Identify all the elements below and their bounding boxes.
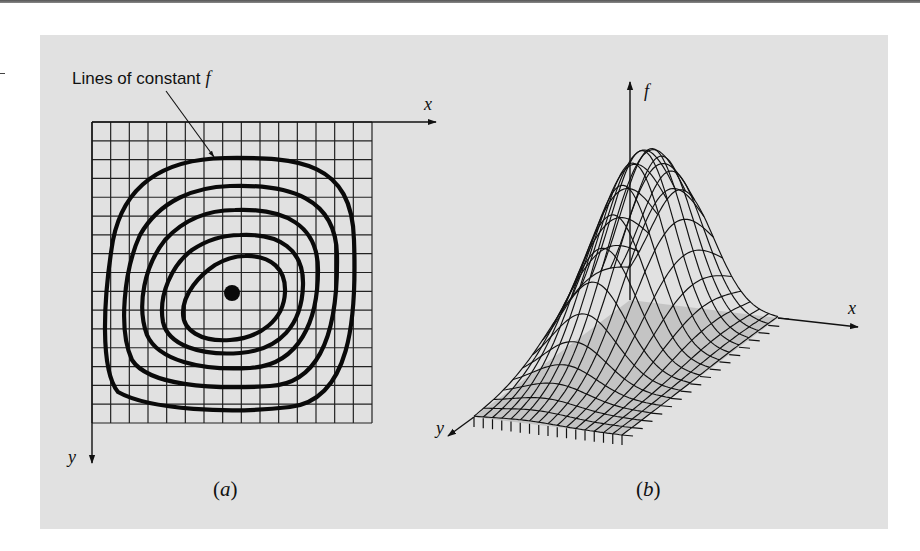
optimum-point — [224, 285, 240, 301]
y-axis-label-a: y — [66, 447, 76, 467]
contour-callout-label: Lines of constant — [72, 69, 201, 88]
contour-callout-var: f — [206, 68, 214, 88]
f-axis-label: f — [644, 81, 652, 101]
contour-lines — [105, 158, 355, 410]
x-axis-label-a: x — [423, 94, 432, 114]
grid — [92, 122, 372, 423]
x-axis-b — [778, 318, 858, 327]
contour-plot: Lines of constantf x y (a) — [66, 68, 436, 501]
surface-plot: f x y (b) — [434, 81, 858, 501]
caption-a: (a) — [213, 477, 238, 501]
figure-canvas: Lines of constantf x y (a) f x y (b) — [0, 0, 920, 551]
y-axis-label-b: y — [434, 418, 444, 438]
y-axis-b — [448, 417, 474, 436]
caption-b: (b) — [636, 477, 661, 501]
x-axis-label-b: x — [847, 298, 856, 318]
svg-text:Lines of constantf: Lines of constantf — [72, 68, 214, 88]
callout-arrow — [166, 91, 214, 157]
